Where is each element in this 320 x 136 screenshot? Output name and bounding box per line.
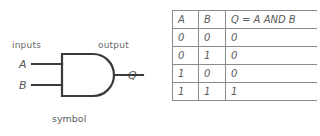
cell-a: 0 <box>173 47 199 65</box>
cell-q: 0 <box>226 29 318 47</box>
truth-table-panel: A B Q = A AND B 0 0 0 0 1 0 1 0 0 <box>160 0 320 136</box>
table-row: 0 1 0 <box>173 47 318 65</box>
and-gate-figure: inputs output A B Q symbol A <box>0 0 320 136</box>
header-cell-q: Q = A AND B <box>226 11 318 29</box>
gate-symbol-panel: inputs output A B Q symbol <box>0 0 160 136</box>
cell-q: 0 <box>226 47 318 65</box>
cell-q: 0 <box>226 65 318 83</box>
cell-b: 0 <box>199 29 226 47</box>
cell-a: 1 <box>173 65 199 83</box>
table-row: 0 0 0 <box>173 29 318 47</box>
cell-b: 0 <box>199 65 226 83</box>
cell-q: 1 <box>226 83 318 101</box>
truth-table: A B Q = A AND B 0 0 0 0 1 0 1 0 0 <box>172 10 317 101</box>
cell-a: 1 <box>173 83 199 101</box>
cell-b: 1 <box>199 47 226 65</box>
cell-a: 0 <box>173 29 199 47</box>
table-row: 1 1 1 <box>173 83 318 101</box>
header-cell-a: A <box>173 11 199 29</box>
header-cell-b: B <box>199 11 226 29</box>
table-header-row: A B Q = A AND B <box>173 11 318 29</box>
table-row: 1 0 0 <box>173 65 318 83</box>
cell-b: 1 <box>199 83 226 101</box>
symbol-caption: symbol <box>52 113 86 124</box>
